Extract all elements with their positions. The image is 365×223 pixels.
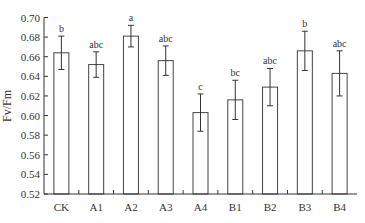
bars-group: bCKabcA1aA2abcA3cA4bcB1abcB2bB3abcB4 xyxy=(54,12,347,213)
significance-label: abc xyxy=(89,39,103,50)
y-tick-label: 0.54 xyxy=(21,168,41,180)
x-tick-label: B4 xyxy=(333,201,346,213)
y-tick-label: 0.62 xyxy=(21,90,40,102)
bar-ck: bCK xyxy=(54,23,69,213)
y-tick-label: 0.58 xyxy=(21,129,41,141)
x-tick-label: B1 xyxy=(229,201,242,213)
significance-label: b xyxy=(302,18,307,29)
bar-rect xyxy=(123,36,138,194)
significance-label: bc xyxy=(231,67,241,78)
significance-label: abc xyxy=(333,38,347,49)
bar-rect xyxy=(297,51,312,194)
bar-b2: abcB2 xyxy=(263,55,278,213)
bar-a2: aA2 xyxy=(123,12,138,213)
significance-label: a xyxy=(129,12,134,23)
y-tick-label: 0.64 xyxy=(21,70,41,82)
y-tick-label: 0.52 xyxy=(21,188,40,200)
significance-label: b xyxy=(59,23,64,34)
bar-rect xyxy=(54,53,69,194)
bar-a4: cA4 xyxy=(193,81,208,213)
x-tick-label: A1 xyxy=(89,201,102,213)
x-tick-label: A3 xyxy=(159,201,173,213)
significance-label: c xyxy=(198,81,203,92)
x-tick-label: A4 xyxy=(194,201,208,213)
bar-chart: bCKabcA1aA2abcA3cA4bcB1abcB2bB3abcB4 0.5… xyxy=(0,0,365,223)
y-tick-label: 0.66 xyxy=(21,51,41,63)
y-tick-label: 0.68 xyxy=(21,31,41,43)
y-axis-label: Fv/Fm xyxy=(0,89,14,122)
x-tick-label: B2 xyxy=(264,201,277,213)
x-tick-label: B3 xyxy=(298,201,311,213)
significance-label: abc xyxy=(263,55,277,66)
x-tick-label: CK xyxy=(54,201,69,213)
x-tick-label: A2 xyxy=(124,201,137,213)
bar-b1: bcB1 xyxy=(228,67,243,213)
y-tick-label: 0.70 xyxy=(21,12,41,24)
bar-rect xyxy=(158,61,173,194)
bar-b3: bB3 xyxy=(297,18,312,213)
significance-label: abc xyxy=(159,33,173,44)
y-tick-label: 0.60 xyxy=(21,110,41,122)
bar-a3: abcA3 xyxy=(158,33,173,213)
bar-a1: abcA1 xyxy=(89,39,104,213)
y-tick-label: 0.56 xyxy=(21,149,41,161)
bar-rect xyxy=(89,65,104,194)
bar-b4: abcB4 xyxy=(332,38,347,213)
